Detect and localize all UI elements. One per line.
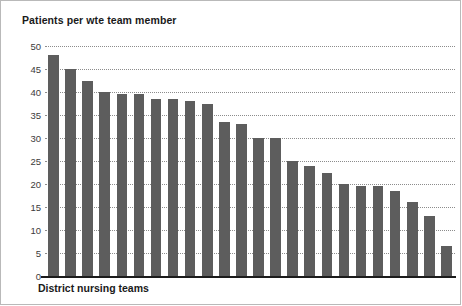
bar [322,173,333,277]
bar [185,101,196,276]
bar [424,216,435,276]
bar [407,202,418,276]
bar [117,94,128,276]
y-tick-label-25: 25 [11,156,41,167]
bar [82,81,93,277]
y-tick-label-15: 15 [11,202,41,213]
bar [99,92,110,276]
y-tick-label-5: 5 [11,248,41,259]
bar [65,69,76,276]
y-tick-label-35: 35 [11,110,41,121]
bar [270,138,281,276]
chart-figure: Patients per wte team member 50454035302… [0,0,462,306]
y-tick-label-10: 10 [11,225,41,236]
y-tick-label-20: 20 [11,179,41,190]
y-tick-label-30: 30 [11,133,41,144]
bar [390,191,401,276]
bar [373,186,384,276]
plot-area [45,46,455,276]
bar [151,99,162,276]
bar-series [45,46,455,276]
bar [134,94,145,276]
chart-title: Patients per wte team member [22,14,177,26]
y-tick-label-0: 0 [11,271,41,282]
y-tick-label-45: 45 [11,64,41,75]
bar [304,166,315,276]
bar [356,186,367,276]
bar [236,124,247,276]
x-axis-line [41,276,456,278]
bar [253,138,264,276]
bar [339,184,350,276]
bar [48,55,59,276]
bar [168,99,179,276]
y-tick-label-40: 40 [11,87,41,98]
x-axis-label: District nursing teams [38,282,149,294]
y-tick-label-50: 50 [11,41,41,52]
bar [202,104,213,277]
bar [287,161,298,276]
bar [219,122,230,276]
bar [441,246,452,276]
